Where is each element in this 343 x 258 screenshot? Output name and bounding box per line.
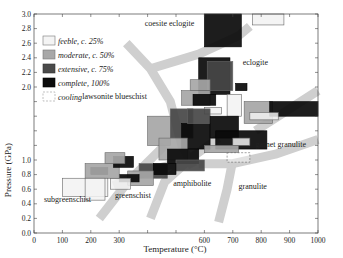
y-tick-label: 2.8 xyxy=(22,24,32,33)
pt-rectangle-complete xyxy=(236,83,247,90)
pt-rectangle-cooling xyxy=(227,153,250,162)
legend-label: extensive, c. 75% xyxy=(58,65,114,74)
y-tick-label: 0.4 xyxy=(22,199,32,208)
facies-label: coesite eclogite xyxy=(145,19,195,28)
y-axis-label: Pressure (GPa) xyxy=(3,143,13,197)
pt-rectangle-feeble xyxy=(253,14,284,25)
facies-boundary-band xyxy=(219,160,233,222)
y-tick-label: 0.8 xyxy=(22,170,32,179)
x-tick-label: 200 xyxy=(85,236,97,245)
y-tick-label: 2.6 xyxy=(22,39,32,48)
y-tick-label: 0.6 xyxy=(22,185,32,194)
legend-label: cooling xyxy=(58,93,82,102)
y-tick-label: 0.0 xyxy=(22,229,32,238)
x-tick-label: 800 xyxy=(256,236,268,245)
pt-rectangle-moderate xyxy=(190,80,210,91)
legend-label: complete, 100% xyxy=(58,79,110,88)
pt-rectangle-moderate xyxy=(204,145,238,152)
pt-rectangle-feeble xyxy=(233,138,250,145)
facies-label: amphibolite xyxy=(173,179,212,188)
x-tick-label: 300 xyxy=(114,236,126,245)
pt-rectangle-complete xyxy=(153,164,176,175)
y-tick-label: 2.4 xyxy=(22,53,32,62)
facies-label: granulite xyxy=(238,182,267,191)
facies-label: lawsonite blueschist xyxy=(82,92,147,101)
facies-label: subgreenschist xyxy=(44,195,92,204)
legend-swatch xyxy=(43,50,55,59)
pt-rectangle-feeble xyxy=(250,113,278,120)
legend-swatch xyxy=(43,78,55,87)
legend-swatch xyxy=(43,92,55,101)
x-tick-label: 900 xyxy=(284,236,296,245)
pt-rectangle-feeble xyxy=(111,178,131,189)
facies-label: eclogite xyxy=(243,58,269,67)
y-tick-label: 2.2 xyxy=(22,68,32,77)
pt-rectangle-moderate xyxy=(105,153,125,164)
pressure-temperature-chart: 010020030060070080090010000.00.20.40.60.… xyxy=(0,0,343,258)
x-axis-label: Temperature (°C) xyxy=(143,244,206,254)
facies-label: garnet granulite xyxy=(256,140,307,149)
y-tick-label: 2.0 xyxy=(22,83,32,92)
facies-label: greenschist xyxy=(115,191,152,200)
pt-rectangle-complete xyxy=(193,94,216,105)
pt-rectangle-feeble xyxy=(227,94,241,116)
x-tick-label: 0 xyxy=(32,236,36,245)
x-tick-label: 1000 xyxy=(311,236,326,245)
y-tick-label: 0.2 xyxy=(22,214,32,223)
x-tick-label: 100 xyxy=(57,236,69,245)
y-tick-label: 1.0 xyxy=(22,156,32,165)
legend-swatch xyxy=(43,36,55,45)
legend-swatch xyxy=(43,64,55,73)
pt-rectangle-extensive xyxy=(176,160,204,171)
pt-rectangle-extensive xyxy=(207,61,233,90)
pt-rectangle-complete xyxy=(204,14,241,47)
legend-label: feeble, c. 25% xyxy=(58,37,104,46)
y-tick-label: 3.0 xyxy=(22,10,32,19)
legend-label: moderate, c. 50% xyxy=(58,51,115,60)
pt-rectangle-extensive xyxy=(187,109,210,124)
x-tick-label: 700 xyxy=(227,236,239,245)
